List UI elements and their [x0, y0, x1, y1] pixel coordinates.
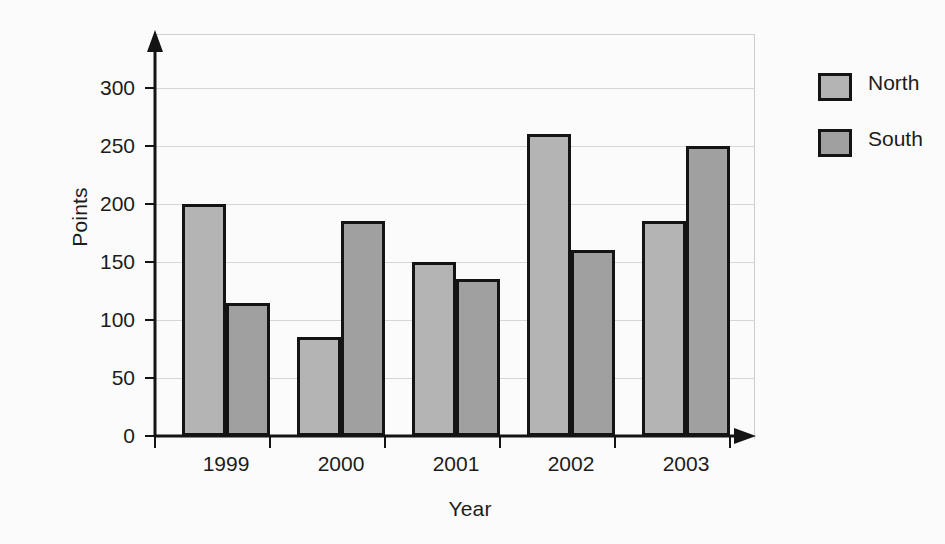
ytick-label-100: 100 — [60, 308, 135, 332]
bar-north-2003 — [642, 221, 686, 436]
xtick-label-2003: 2003 — [636, 452, 736, 476]
xtick-label-1999: 1999 — [176, 452, 276, 476]
ytick-label-250: 250 — [60, 134, 135, 158]
x-axis-title: Year — [380, 497, 560, 521]
xtick-label-2000: 2000 — [291, 452, 391, 476]
xtick-label-2001: 2001 — [406, 452, 506, 476]
legend-label-north: North — [868, 71, 919, 95]
bar-north-2000 — [297, 337, 341, 436]
legend-swatch-north — [818, 73, 852, 101]
bar-south-2002 — [571, 250, 615, 436]
bar-chart-figure: 300 250 200 150 100 50 0 — [0, 0, 945, 544]
bar-north-1999 — [182, 204, 226, 436]
gridline-250 — [155, 146, 755, 147]
bar-south-2000 — [341, 221, 385, 436]
bar-south-1999 — [226, 303, 270, 436]
xtick-label-2002: 2002 — [521, 452, 621, 476]
bar-north-2001 — [412, 262, 456, 436]
ytick-label-50: 50 — [60, 366, 135, 390]
legend-label-south: South — [868, 127, 923, 151]
y-axis-title: Points — [68, 157, 92, 277]
bar-north-2002 — [527, 134, 571, 436]
legend-swatch-south — [818, 129, 852, 157]
gridline-200 — [155, 204, 755, 205]
gridline-300 — [155, 88, 755, 89]
bar-south-2003 — [686, 146, 730, 436]
ytick-label-0: 0 — [60, 424, 135, 448]
bar-south-2001 — [456, 279, 500, 436]
ytick-label-300: 300 — [60, 76, 135, 100]
plot-border-top — [155, 34, 755, 35]
